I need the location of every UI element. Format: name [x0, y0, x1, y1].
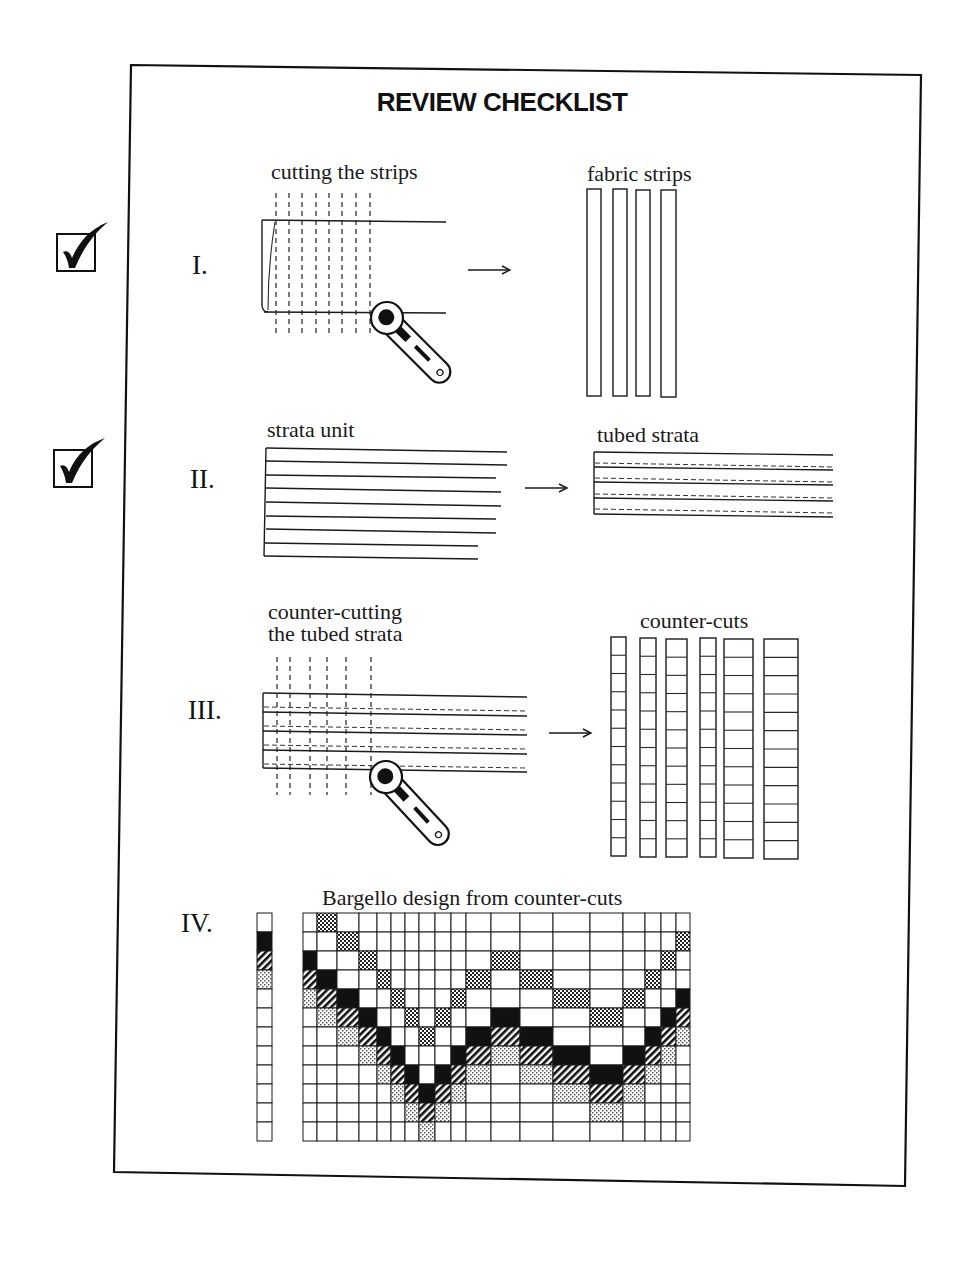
bargello-cell-white [405, 1122, 419, 1141]
bargello-cell-light-dots [377, 1065, 391, 1084]
bargello-cell-white [377, 951, 391, 970]
bargello-cell-black [491, 1008, 520, 1027]
section-numeral: I. [192, 250, 208, 280]
bargello-cell-white [435, 1122, 451, 1141]
bargello-cell-white [377, 932, 391, 951]
bargello-cell-white [590, 951, 623, 970]
bargello-cell-white [435, 970, 451, 989]
bargello-column [337, 913, 359, 1141]
bargello-cell-black [661, 1008, 676, 1027]
bargello-cell-white [317, 1065, 337, 1084]
bargello-cell-white [645, 932, 661, 951]
bargello-cell-white [520, 1103, 553, 1122]
bargello-cell-white [623, 951, 645, 970]
bargello-column [419, 913, 435, 1141]
key-cell-white [257, 1103, 272, 1122]
bargello-cell-white [520, 1084, 553, 1103]
bargello-cell-white [466, 951, 491, 970]
bargello-cell-white [553, 913, 590, 932]
bargello-cell-hatch [391, 1065, 405, 1084]
bargello-cell-dark-dots [520, 970, 553, 989]
rotary-cutter-icon [363, 754, 457, 852]
bargello-cell-hatch [590, 1084, 623, 1103]
bargello-cell-white [645, 1008, 661, 1027]
bargello-cell-black [359, 1008, 377, 1027]
bargello-cell-white [377, 1084, 391, 1103]
bargello-cell-white [491, 913, 520, 932]
bargello-cell-hatch [435, 1084, 451, 1103]
bargello-cell-hatch [553, 1065, 590, 1084]
bargello-cell-white [337, 1046, 359, 1065]
bargello-cell-light-dots [405, 1103, 419, 1122]
bargello-cell-white [377, 1008, 391, 1027]
checkbox-section-2[interactable] [54, 438, 105, 487]
bargello-cell-white [491, 1103, 520, 1122]
bargello-cell-white [405, 932, 419, 951]
bargello-cell-white [590, 989, 623, 1008]
bargello-cell-white [391, 1008, 405, 1027]
bargello-cell-white [303, 1122, 317, 1141]
bargello-cell-black [676, 989, 690, 1008]
bargello-cell-white [491, 1065, 520, 1084]
bargello-cell-white [466, 989, 491, 1008]
rotary-cutter-icon [364, 295, 459, 390]
bargello-cell-white [676, 1122, 690, 1141]
bargello-cell-black [590, 1065, 623, 1084]
bargello-cell-dark-dots [466, 970, 491, 989]
bargello-cell-light-dots [623, 1084, 645, 1103]
bargello-cell-white [359, 1084, 377, 1103]
bargello-column [435, 913, 451, 1141]
bargello-cell-white [317, 1103, 337, 1122]
bargello-cell-white [451, 1008, 466, 1027]
bargello-column [391, 913, 405, 1141]
bargello-column [466, 913, 491, 1141]
tubed-strata [594, 452, 833, 517]
checkbox-section-1[interactable] [57, 222, 108, 271]
bargello-cell-white [520, 1008, 553, 1027]
bargello-cell-white [661, 989, 676, 1008]
caption-tubed-strata: tubed strata [597, 422, 699, 447]
arrow-right-icon [468, 266, 510, 274]
bargello-column [520, 913, 553, 1141]
bargello-cell-white [645, 913, 661, 932]
bargello-cell-white [623, 932, 645, 951]
bargello-cell-white [590, 970, 623, 989]
bargello-cell-dark-dots [491, 951, 520, 970]
bargello-column [451, 913, 466, 1141]
bargello-cell-white [359, 932, 377, 951]
bargello-cell-white [623, 970, 645, 989]
bargello-cell-dark-dots [590, 1008, 623, 1027]
bargello-column [359, 913, 377, 1141]
bargello-cell-black [405, 1065, 419, 1084]
bargello-cell-white [337, 1084, 359, 1103]
bargello-cell-white [661, 1122, 676, 1141]
bargello-cell-white [623, 913, 645, 932]
bargello-cell-white [435, 1046, 451, 1065]
section-numeral: II. [190, 464, 215, 494]
bargello-cell-white [317, 951, 337, 970]
arrow-right-icon [525, 484, 567, 492]
bargello-cell-light-dots [419, 1122, 435, 1141]
bargello-cell-dark-dots [676, 932, 690, 951]
bargello-cell-light-dots [661, 1046, 676, 1065]
bargello-cell-white [520, 951, 553, 970]
bargello-cell-white [317, 1027, 337, 1046]
bargello-cell-dark-dots [391, 989, 405, 1008]
bargello-cell-hatch [661, 1027, 676, 1046]
counter-cuts [611, 637, 798, 859]
bargello-cell-white [337, 951, 359, 970]
bargello-cell-hatch [419, 1103, 435, 1122]
bargello-cell-light-dots [676, 1027, 690, 1046]
fabric-strips [587, 189, 676, 397]
bargello-column [317, 913, 337, 1141]
bargello-cell-white [645, 1084, 661, 1103]
bargello-cell-white [435, 951, 451, 970]
bargello-cell-white [645, 989, 661, 1008]
bargello-cell-white [337, 913, 359, 932]
bargello-cell-white [359, 1122, 377, 1141]
key-cell-hatch [257, 951, 272, 970]
bargello-cell-white [451, 970, 466, 989]
arrow-right-icon [549, 729, 591, 737]
bargello-cell-white [337, 1122, 359, 1141]
bargello-cell-white [623, 1027, 645, 1046]
